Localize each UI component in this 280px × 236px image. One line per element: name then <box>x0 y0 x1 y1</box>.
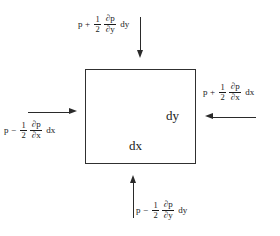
bottom-base-pressure: p <box>136 206 141 215</box>
right-arrow-head-left-icon <box>205 113 213 119</box>
left-partial-derivative: ∂p ∂x <box>30 120 42 140</box>
bottom-derivative-numerator: ∂p <box>162 200 174 211</box>
bottom-coefficient-numerator: 1 <box>152 201 159 211</box>
top-operator: + <box>85 20 90 29</box>
right-differential: dx <box>245 88 254 97</box>
bottom-coefficient-denominator: 2 <box>152 211 159 220</box>
top-half-coefficient: 1 2 <box>94 15 101 34</box>
right-derivative-denominator: ∂x <box>229 93 241 103</box>
top-derivative-denominator: ∂y <box>104 25 116 35</box>
right-base-pressure: p <box>203 88 208 97</box>
right-arrow-shaft <box>213 117 256 118</box>
right-coefficient-numerator: 1 <box>219 83 226 93</box>
left-derivative-numerator: ∂p <box>30 120 42 131</box>
left-operator: − <box>11 126 16 135</box>
top-base-pressure: p <box>78 20 83 29</box>
width-dimension-label: dx <box>129 139 142 152</box>
left-differential: dx <box>46 126 55 135</box>
left-half-coefficient: 1 2 <box>20 121 27 140</box>
bottom-partial-derivative: ∂p ∂y <box>162 200 174 220</box>
top-coefficient-denominator: 2 <box>94 25 101 34</box>
top-arrow-head-down-icon <box>137 50 143 58</box>
diagram-canvas: dy dx p + 1 2 ∂p ∂y dy p + 1 2 ∂p ∂x dx … <box>0 0 280 236</box>
left-pressure-label: p − 1 2 ∂p ∂x dx <box>4 120 55 140</box>
left-coefficient-denominator: 2 <box>20 131 27 140</box>
right-operator: + <box>210 88 215 97</box>
right-pressure-label: p + 1 2 ∂p ∂x dx <box>203 82 254 102</box>
left-derivative-denominator: ∂x <box>30 131 42 141</box>
left-base-pressure: p <box>4 126 9 135</box>
top-derivative-numerator: ∂p <box>104 14 116 25</box>
left-arrow-head-right-icon <box>69 108 77 114</box>
left-arrow-shaft <box>28 112 70 113</box>
right-coefficient-denominator: 2 <box>219 93 226 102</box>
bottom-operator: − <box>143 206 148 215</box>
top-coefficient-numerator: 1 <box>94 15 101 25</box>
left-coefficient-numerator: 1 <box>20 121 27 131</box>
bottom-half-coefficient: 1 2 <box>152 201 159 220</box>
bottom-differential: dy <box>178 206 187 215</box>
top-arrow-shaft <box>140 17 141 51</box>
right-half-coefficient: 1 2 <box>219 83 226 102</box>
right-partial-derivative: ∂p ∂x <box>229 82 241 102</box>
height-dimension-label: dy <box>166 109 179 122</box>
top-pressure-label: p + 1 2 ∂p ∂y dy <box>78 14 129 34</box>
top-partial-derivative: ∂p ∂y <box>104 14 116 34</box>
bottom-arrow-shaft <box>133 183 134 218</box>
bottom-derivative-denominator: ∂y <box>162 211 174 221</box>
bottom-pressure-label: p − 1 2 ∂p ∂y dy <box>136 200 187 220</box>
top-differential: dy <box>120 20 129 29</box>
right-derivative-numerator: ∂p <box>229 82 241 93</box>
bottom-arrow-head-up-icon <box>130 175 136 183</box>
